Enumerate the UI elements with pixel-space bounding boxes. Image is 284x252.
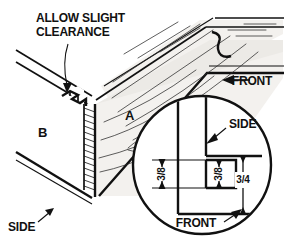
rabbet-joint-illustration: 3/8 3/8 3/4 <box>0 0 284 252</box>
part-b-label: B <box>38 125 47 140</box>
side-left-label: SIDE <box>8 220 35 234</box>
part-a-label: A <box>125 108 135 123</box>
clearance-leader-group <box>63 44 72 93</box>
dim-middle-label: 3/8 <box>213 167 224 181</box>
detail-side-label: SIDE <box>229 117 256 131</box>
dim-right-label: 3/4 <box>236 174 250 185</box>
clearance-label-line2: CLEARANCE <box>36 25 110 39</box>
detail-front-label: FRONT <box>176 216 217 230</box>
dim-left-label: 3/8 <box>156 167 167 181</box>
clearance-label-line1: ALLOW SLIGHT <box>36 11 126 25</box>
figure-root: 3/8 3/8 3/4 <box>0 0 284 252</box>
front-top-label: FRONT <box>232 74 273 88</box>
board-b-group <box>16 50 92 204</box>
side-left-leader-group <box>38 208 54 222</box>
end-grain-strip-group <box>84 104 96 197</box>
